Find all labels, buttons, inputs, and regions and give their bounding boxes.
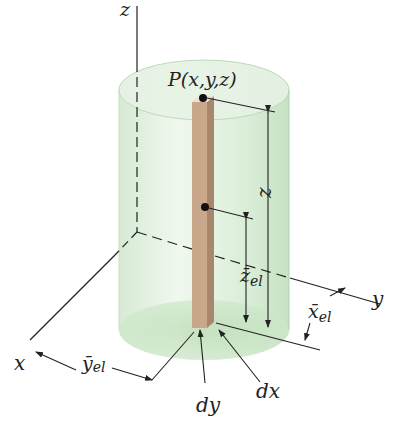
cylinder-element-diagram: z y x P(x,y,z) z z̄el x̄el ȳel dx dy [0,0,394,433]
point-centroid [201,203,209,211]
y-el-label: ȳel [81,352,106,375]
point-p [199,94,207,102]
dy-label: dy [196,393,221,417]
volume-element [192,96,214,328]
height-label: z [252,187,276,199]
y-axis-label: y [371,287,384,311]
x-axis-label: x [14,351,25,375]
point-label: P(x,y,z) [167,68,237,90]
dx-label: dx [256,379,280,403]
z-axis-label: z [119,0,131,20]
x-el-label: x̄el [308,300,331,325]
